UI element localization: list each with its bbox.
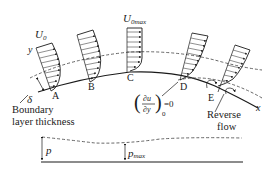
reverse-flow-label-line2: flow [217,121,237,132]
pressure-max-label: pmax [127,147,146,160]
x-axis-label: x [255,102,261,113]
boundary-layer-diagram: U0 y U0max δ A B C D E x Boundary layer … [0,0,267,173]
svg-text:∂u: ∂u [143,94,151,103]
reverse-flow-label-line1: Reverse [207,109,241,120]
right-paren: ) [155,91,162,114]
svg-text:=0: =0 [164,99,174,109]
station-d-label: D [180,81,187,92]
boundary-layer-label-line1: Boundary [12,104,54,115]
pressure-label: p [45,144,52,156]
station-e-label: E [208,92,214,103]
pressure-curve [42,137,242,143]
velocity-profile-e [207,45,250,94]
y-axis-label: y [27,44,33,55]
svg-text:∂y: ∂y [143,105,151,114]
velocity-profile-c [127,28,142,72]
pressure-distribution: p pmax [41,137,243,162]
velocity-profile-b [77,30,101,82]
boundary-layer-label-line2: layer thickness [12,116,75,127]
delta-indicator [38,80,44,91]
u0-label: U0 [35,28,47,42]
velocity-profile-a [36,43,60,91]
station-b-label: B [88,81,95,92]
station-c-label: C [127,72,134,83]
station-a-label: A [52,90,60,101]
u0max-label: U0max [123,12,147,26]
separation-leader-line [162,82,178,96]
separation-condition-formula: ( ∂u ∂y ) 0 =0 [134,91,174,118]
velocity-profile-d [180,33,208,80]
svg-text:0: 0 [162,110,166,118]
left-paren: ( [134,91,141,114]
